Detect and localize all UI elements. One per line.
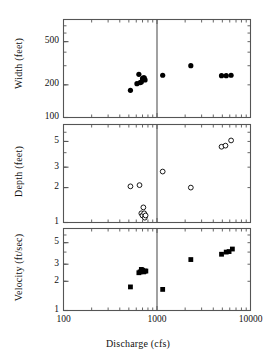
- y-tick-label: 500: [20, 35, 59, 45]
- y-tick-label: 100: [20, 111, 59, 121]
- y-tick-label: 2: [20, 275, 59, 285]
- y-tick-label: 1: [20, 304, 59, 314]
- x-tick-label: 100: [34, 314, 94, 324]
- y-tick-label: 3: [20, 258, 59, 268]
- y-tick-label: 5: [20, 236, 59, 246]
- y-tick-label: 3: [20, 161, 59, 171]
- y-tick-label: 1: [20, 216, 59, 226]
- depth-axis-title: Depth (feet): [13, 137, 24, 207]
- y-tick-label: 200: [20, 78, 59, 88]
- hydraulic-geometry-figure: Width (feet) Depth (feet) Velocity (ft/s…: [0, 0, 276, 359]
- x-tick-label: 10000: [221, 314, 277, 324]
- discharge-axis-title: Discharge (cfs): [0, 338, 276, 349]
- x-tick-label: 1000: [127, 314, 187, 324]
- y-tick-label: 2: [20, 181, 59, 191]
- y-tick-label: 5: [20, 135, 59, 145]
